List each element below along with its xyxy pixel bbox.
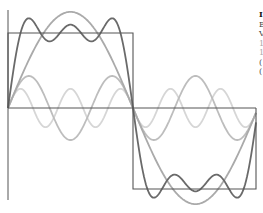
caption-line: 1	[259, 39, 263, 49]
caption-line: (	[259, 67, 263, 77]
caption-line: (	[259, 58, 263, 68]
square-wave	[8, 33, 256, 189]
caption-text: I E V 1 1 ( (	[259, 10, 263, 77]
caption-line: V	[259, 29, 263, 39]
caption-line: I	[259, 10, 263, 20]
fourier-square-wave-diagram	[0, 0, 263, 213]
caption-line: E	[259, 20, 263, 30]
caption-line: 1	[259, 48, 263, 58]
